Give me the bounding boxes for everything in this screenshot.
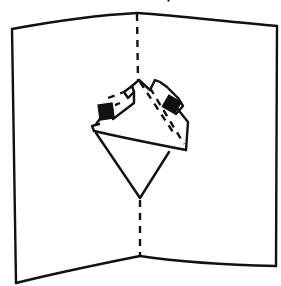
popup-inner-fold-right [150,88,184,144]
left-block [98,86,134,120]
popup-left-lip [92,124,99,131]
pop-up-card-diagram [0,0,281,286]
popup-triangle [96,133,169,198]
popup-front-edge [94,131,186,150]
left-panel-top-edge [12,13,137,29]
left-panel-bottom-edge [16,256,140,283]
left-panel-outer-edge [12,29,16,283]
pop-up-mechanism [92,80,188,198]
popup-left-edge [132,80,139,86]
left-card-panel [12,13,140,283]
right-panel-top-edge [138,13,277,26]
right-panel-outer-edge [276,26,277,266]
center-fold-dashed-line [137,14,140,255]
right-card-panel [138,13,277,266]
right-block-top [150,80,178,98]
right-block [150,80,183,114]
left-block-top [124,86,134,98]
right-panel-bottom-edge [140,256,276,266]
left-block-dark-face [98,103,114,120]
left-block-dashed-edge [108,92,124,98]
center-fold-upper [137,14,138,80]
